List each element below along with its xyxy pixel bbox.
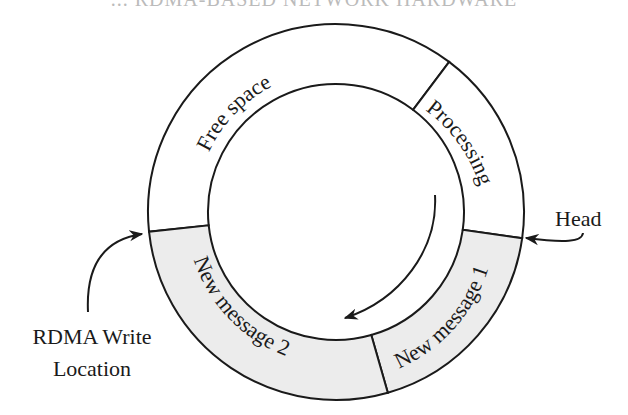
- rdma-write-arrow-icon: [88, 234, 142, 312]
- ring-segment-new-message-2: [149, 225, 388, 400]
- head-label: Head: [555, 206, 601, 231]
- ring-buffer-diagram: Free space Processing New message 1 New …: [0, 0, 628, 415]
- ring-segments: [148, 24, 524, 400]
- head-arrow-icon: [526, 233, 583, 241]
- rdma-label-line2: Location: [53, 356, 131, 381]
- ring-segment-free-space: [148, 24, 449, 232]
- direction-arrow-icon: [345, 195, 435, 318]
- rdma-label-line1: RDMA Write: [32, 324, 151, 349]
